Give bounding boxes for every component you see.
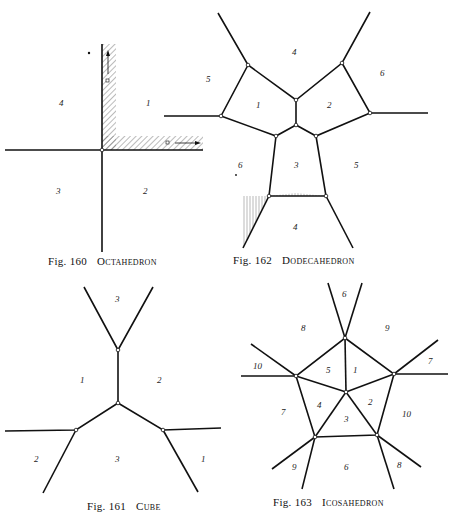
face-label: 10 — [253, 361, 263, 371]
face-label: 4 — [293, 222, 298, 232]
figure-number: Fig. 162 — [233, 254, 272, 266]
face-label: 8 — [397, 460, 402, 470]
figure-number: Fig. 163 — [273, 496, 312, 508]
figure-number: Fig. 161 — [87, 500, 126, 512]
face-label: 5 — [326, 365, 331, 375]
octahedron-diagram — [5, 44, 203, 252]
figure-title: Icosahedron — [322, 496, 384, 508]
icosahedron-diagram — [241, 283, 448, 489]
face-label: 4 — [59, 98, 64, 108]
face-label: 7 — [428, 356, 433, 366]
face-label: 8 — [301, 323, 306, 333]
face-label: 5 — [206, 74, 211, 84]
face-label: 7 — [281, 407, 286, 417]
face-label: 9 — [292, 462, 297, 472]
caption-fig-163: Fig. 163Icosahedron — [273, 496, 384, 508]
face-label: 3 — [114, 294, 120, 304]
face-label: 6 — [342, 289, 347, 299]
caption-fig-162: Fig. 162Dodecahedron — [233, 254, 355, 266]
figure-title: Dodecahedron — [282, 254, 354, 266]
face-label: 2 — [368, 397, 373, 407]
face-label: 2 — [34, 454, 39, 464]
face-label: 2 — [327, 100, 332, 110]
caption-fig-160: Fig. 160Octahedron — [48, 255, 157, 267]
face-label: 1 — [146, 98, 151, 108]
face-label: 3 — [114, 454, 120, 464]
face-label: 1 — [256, 100, 261, 110]
face-label: 3 — [55, 186, 61, 196]
cube-diagram — [5, 287, 221, 497]
face-label: 9 — [385, 323, 390, 333]
face-label: 5 — [354, 160, 359, 170]
caption-fig-161: Fig. 161Cube — [87, 500, 161, 512]
face-label: 2 — [157, 375, 162, 385]
figure-title: Cube — [136, 500, 161, 512]
face-label: 6 — [238, 160, 243, 170]
face-label: 4 — [317, 400, 322, 410]
face-label: 1 — [201, 454, 206, 464]
face-label: 3 — [293, 160, 299, 170]
face-label: 10 — [402, 409, 412, 419]
face-label: 2 — [143, 186, 148, 196]
face-label: 1 — [80, 375, 85, 385]
face-label: 4 — [292, 47, 297, 57]
face-label: 1 — [353, 365, 358, 375]
face-label: 6 — [380, 68, 385, 78]
figure-title: Octahedron — [97, 255, 157, 267]
face-label: 3 — [343, 414, 349, 424]
figure-number: Fig. 160 — [48, 255, 87, 267]
face-label: 6 — [344, 462, 349, 472]
